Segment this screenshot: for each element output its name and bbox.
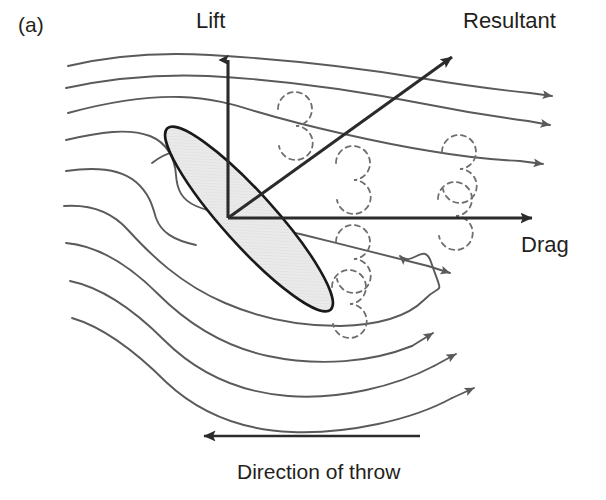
streamline-lower-4 [72,318,452,432]
streamline-lower-3 [70,281,434,397]
streamline-upper-3 [68,97,520,161]
panel-label: (a) [18,14,44,35]
streamline-upper-2 [66,76,528,121]
turbulence-marker-3 [442,135,477,203]
direction-of-throw-label: Direction of throw [237,461,400,482]
resultant-label: Resultant [463,10,556,32]
turbulence-marker-2 [336,146,371,214]
streamline-lower-arrow-2 [412,333,433,346]
resultant-vector [228,57,452,218]
streamline-arrow-4 [428,266,450,273]
streamline-upper-1 [68,54,530,93]
discus-aerodynamics-figure: (a) Lift Resultant Drag Direction of thr… [0,0,606,500]
streamline-arrow-3 [520,161,543,164]
streamline-arrow-2 [528,121,550,125]
lower-streamline-arrowheads [412,333,474,398]
streamline-arrow-1 [530,93,552,96]
streamline-lower-arrow-4 [452,388,474,398]
streamline-lower-arrow-3 [434,354,456,366]
lift-label: Lift [196,10,225,32]
drag-label: Drag [521,234,569,256]
diagram-canvas [0,0,606,500]
